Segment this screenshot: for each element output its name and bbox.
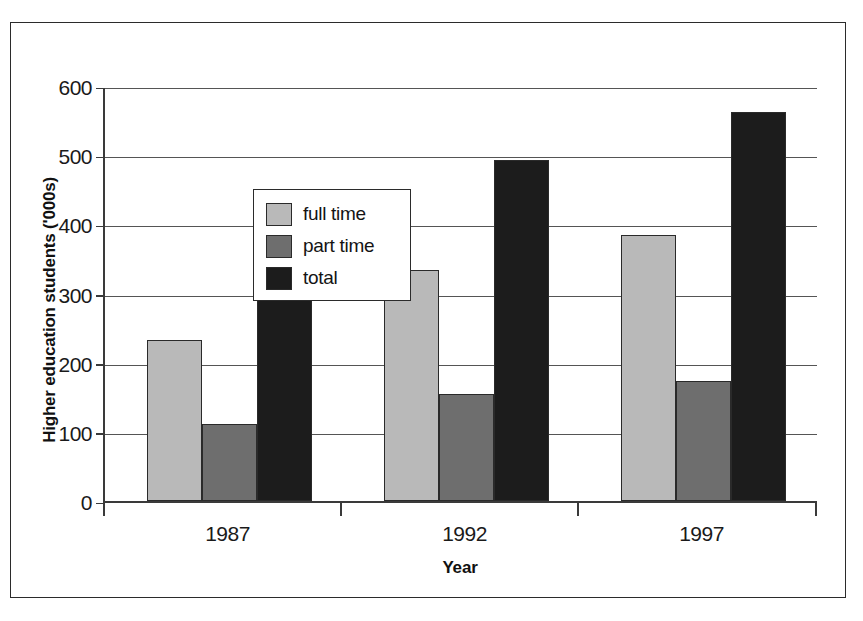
legend: full time part time total bbox=[253, 189, 411, 301]
x-axis-tick-label-1997: 1997 bbox=[679, 522, 724, 546]
legend-label-full-time: full time bbox=[303, 203, 366, 225]
y-axis-tick-label: 0 bbox=[81, 491, 92, 515]
bar-full-time-1987 bbox=[147, 340, 202, 501]
gridline bbox=[105, 226, 817, 227]
bar-part-time-1992 bbox=[439, 394, 494, 501]
bar-total-1992 bbox=[494, 160, 549, 501]
x-axis-tick-mark bbox=[577, 503, 579, 516]
x-axis-title: Year bbox=[103, 558, 817, 578]
legend-label-total: total bbox=[303, 267, 337, 289]
legend-item-part-time: part time bbox=[266, 230, 410, 262]
y-axis-tick-mark bbox=[96, 364, 105, 366]
gridline bbox=[105, 365, 817, 366]
figure: Higher education students ('000s) 010020… bbox=[0, 0, 863, 621]
x-axis-tick-mark bbox=[103, 503, 105, 516]
plot-area: full time part time total bbox=[103, 88, 817, 503]
bar-part-time-1997 bbox=[676, 381, 731, 501]
y-axis-tick-label: 200 bbox=[58, 353, 92, 377]
x-axis-tick-marks bbox=[103, 503, 817, 517]
y-axis-tick-label: 500 bbox=[58, 145, 92, 169]
bar-full-time-1997 bbox=[621, 235, 676, 501]
x-axis-tick-mark bbox=[340, 503, 342, 516]
gridline bbox=[105, 296, 817, 297]
y-axis-tick-mark bbox=[96, 433, 105, 435]
x-axis-tick-label-1992: 1992 bbox=[442, 522, 487, 546]
y-axis-tick-label: 600 bbox=[58, 76, 92, 100]
x-axis-tick-labels: 198719921997 bbox=[103, 522, 817, 550]
y-axis-tick-labels: 0100200300400500600 bbox=[22, 88, 92, 503]
y-axis-tick-label: 100 bbox=[58, 422, 92, 446]
y-axis-tick-label: 400 bbox=[58, 214, 92, 238]
gridline bbox=[105, 157, 817, 158]
bar-total-1997 bbox=[731, 112, 786, 501]
legend-swatch-part-time bbox=[266, 235, 292, 258]
y-axis-tick-mark bbox=[96, 157, 105, 159]
bar-part-time-1987 bbox=[202, 424, 257, 501]
y-axis-tick-mark bbox=[96, 226, 105, 228]
legend-label-part-time: part time bbox=[303, 235, 374, 257]
legend-swatch-total bbox=[266, 267, 292, 290]
x-axis-tick-mark bbox=[815, 503, 817, 516]
y-axis-tick-label: 300 bbox=[58, 284, 92, 308]
x-axis-tick-label-1987: 1987 bbox=[205, 522, 250, 546]
y-axis-tick-mark bbox=[96, 295, 105, 297]
legend-item-full-time: full time bbox=[266, 198, 410, 230]
gridline bbox=[105, 88, 817, 89]
legend-swatch-full-time bbox=[266, 203, 292, 226]
legend-item-total: total bbox=[266, 262, 410, 294]
y-axis-tick-mark bbox=[96, 88, 105, 90]
bar-full-time-1992 bbox=[384, 270, 439, 501]
